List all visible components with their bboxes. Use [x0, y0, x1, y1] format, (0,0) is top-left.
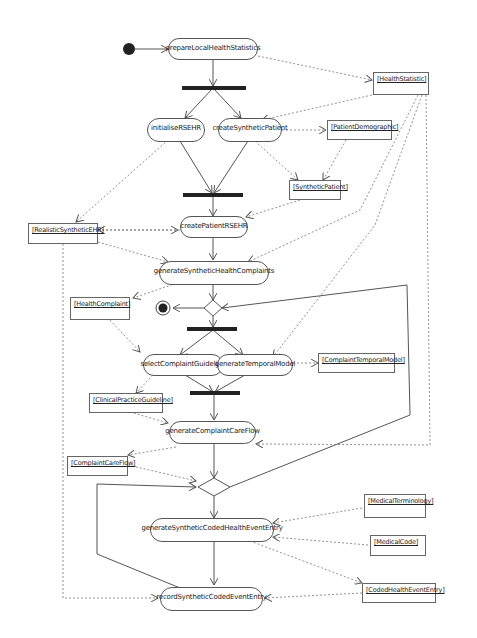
object-label: [PatientDemographic]	[331, 123, 398, 131]
object-complaint-temporal-model[interactable]: [ComplaintTemporalModel]	[318, 353, 395, 373]
action-generate-temporal-model[interactable]: generateTemporalModel	[217, 354, 293, 376]
object-clinical-practice-guideline[interactable]: [ClinicalPracticeGuideline]	[89, 393, 163, 413]
decision-node	[198, 478, 230, 496]
action-initialise-rsehr[interactable]: initialiseRSEHR	[147, 118, 205, 142]
action-generate-synthetic-coded-health-event-entry[interactable]: generateSyntheticCodedHealthEventEntry	[150, 518, 274, 542]
join-bar	[183, 193, 243, 197]
initial-node	[123, 43, 135, 55]
object-label: [HealthStatistic]	[377, 75, 426, 83]
object-synthetic-patient[interactable]: [SyntheticPatient]	[289, 180, 341, 200]
object-label: [MedicalTerminology]	[368, 497, 433, 505]
object-complaint-care-flow[interactable]: [ComplaintCareFlow]	[67, 456, 128, 476]
object-label: [MedicalCode]	[374, 538, 418, 546]
object-label: [SyntheticPatient]	[293, 183, 348, 191]
action-create-synthetic-patient[interactable]: createSyntheticPatient	[218, 118, 282, 142]
action-create-patient-rsehr[interactable]: createPatientRSEHR	[180, 216, 248, 238]
object-medical-code[interactable]: [MedicalCode]	[370, 535, 426, 556]
action-generate-synthetic-health-complaints[interactable]: generateSyntheticHealthComplaints	[159, 261, 269, 285]
object-patient-demographic[interactable]: [PatientDemographic]	[327, 120, 392, 140]
object-label: [ComplaintTemporalModel]	[322, 356, 405, 364]
action-select-complaint-guideline[interactable]: selectComplaintGuideline	[143, 354, 223, 376]
object-health-complaint[interactable]: [HealthComplaint]	[70, 297, 130, 320]
fork-bar	[187, 327, 237, 331]
action-prepare-local-health-statistics[interactable]: prepareLocalHealthStatistics	[168, 38, 258, 60]
object-health-statistic[interactable]: [HealthStatistic]	[373, 72, 429, 95]
object-label: [CodedHealthEventEntry]	[366, 586, 445, 594]
join-bar	[190, 391, 240, 395]
object-coded-health-event-entry[interactable]: [CodedHealthEventEntry]	[362, 583, 436, 603]
action-generate-complaint-care-flow[interactable]: generateComplaintCareFlow	[169, 421, 256, 444]
fork-bar	[182, 86, 246, 90]
object-label: [HealthComplaint]	[74, 300, 130, 308]
object-medical-terminology[interactable]: [MedicalTerminology]	[364, 494, 426, 518]
decision-node	[204, 300, 222, 316]
object-realistic-synthetic-ehr[interactable]: [RealisticSyntheticEHR]	[28, 223, 98, 244]
action-record-synthetic-coded-event-entry[interactable]: recordSyntheticCodedEventEntry	[160, 587, 263, 611]
object-label: [ComplaintCareFlow]	[71, 459, 135, 467]
object-label: [RealisticSyntheticEHR]	[32, 226, 104, 234]
object-label: [ClinicalPracticeGuideline]	[93, 396, 173, 404]
